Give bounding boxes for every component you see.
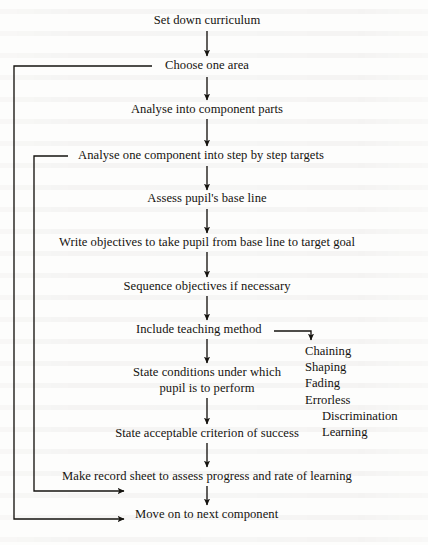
node-include-teaching-method: Include teaching method [136, 322, 262, 337]
node-sequence-objectives: Sequence objectives if necessary [124, 279, 291, 294]
node-move-on-to-next-component: Move on to next component [135, 507, 278, 522]
branch-item-discrimination: Discrimination [305, 408, 398, 424]
flowchart-page: Set down curriculum Choose one area Anal… [0, 0, 428, 545]
node-write-objectives: Write objectives to take pupil from base… [59, 235, 355, 250]
branch-item-chaining: Chaining [305, 343, 398, 359]
branch-list-teaching-methods: Chaining Shaping Fading Errorless Discri… [305, 343, 398, 440]
node-state-conditions-line-1: State conditions under which [133, 365, 281, 380]
node-assess-base-line: Assess pupil's base line [147, 191, 266, 206]
branch-item-errorless: Errorless [305, 392, 398, 408]
branch-item-fading: Fading [305, 375, 398, 391]
node-state-conditions-line-2: pupil is to perform [159, 381, 254, 396]
branch-item-learning: Learning [305, 424, 398, 440]
branch-item-shaping: Shaping [305, 359, 398, 375]
node-make-record-sheet: Make record sheet to assess progress and… [62, 469, 352, 484]
node-analyse-one-component: Analyse one component into step by step … [78, 148, 324, 163]
node-state-acceptable-criterion: State acceptable criterion of success [115, 426, 299, 441]
feedback-loop-inner [34, 156, 124, 491]
node-set-down-curriculum: Set down curriculum [154, 13, 261, 28]
branch-connector-teaching-methods [274, 331, 311, 340]
node-analyse-into-component-parts: Analyse into component parts [131, 102, 283, 117]
flowchart-connectors [0, 0, 428, 545]
node-choose-one-area: Choose one area [165, 58, 249, 73]
